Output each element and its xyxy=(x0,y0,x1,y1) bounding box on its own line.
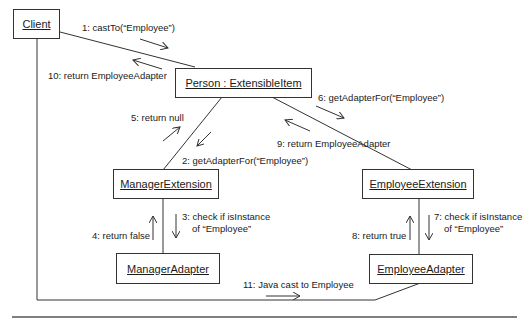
message-3-line2: of “Employee” xyxy=(192,223,251,234)
object-person-label: Person : ExtensibleItem xyxy=(185,77,301,89)
message-10: 10: return EmployeeAdapter xyxy=(48,70,167,81)
arrow-m1 xyxy=(140,39,168,48)
message-4: 4: return false xyxy=(92,230,150,241)
object-manager-extension-label: ManagerExtension xyxy=(120,178,212,190)
message-8: 8: return true xyxy=(352,230,406,241)
object-manager-extension[interactable]: ManagerExtension xyxy=(113,169,219,199)
object-employee-extension-label: EmployeeExtension xyxy=(369,178,466,190)
object-employee-extension[interactable]: EmployeeExtension xyxy=(362,169,474,199)
object-manager-adapter[interactable]: ManagerAdapter xyxy=(116,253,220,284)
message-9: 9: return EmployeeAdapter xyxy=(277,138,391,149)
message-6: 6: getAdapterFor(“Employee”) xyxy=(318,92,444,103)
arrow-m10 xyxy=(133,60,162,69)
message-7-line1: 7: check if isInstance xyxy=(434,211,522,222)
object-person[interactable]: Person : ExtensibleItem xyxy=(175,68,312,98)
message-11: 11: Java cast to Employee xyxy=(243,279,354,290)
arrow-m5 xyxy=(163,127,180,141)
arrow-m2 xyxy=(197,132,211,146)
message-3-line1: 3: check if isInstance xyxy=(182,211,270,222)
link-client-person xyxy=(60,32,195,67)
message-5: 5: return null xyxy=(131,112,184,123)
object-client-label: Client xyxy=(22,18,50,30)
object-employee-adapter-label: EmployeeAdapter xyxy=(377,263,464,275)
message-2: 2: getAdapterFor(“Employee”) xyxy=(182,155,308,166)
message-1: 1: castTo(“Employee”) xyxy=(82,22,175,33)
message-7-line2: of “Employee” xyxy=(444,223,503,234)
arrow-m9 xyxy=(285,120,310,131)
arrow-m6 xyxy=(316,106,344,118)
object-client[interactable]: Client xyxy=(13,9,60,39)
object-manager-adapter-label: ManagerAdapter xyxy=(127,263,209,275)
object-employee-adapter[interactable]: EmployeeAdapter xyxy=(369,254,473,284)
